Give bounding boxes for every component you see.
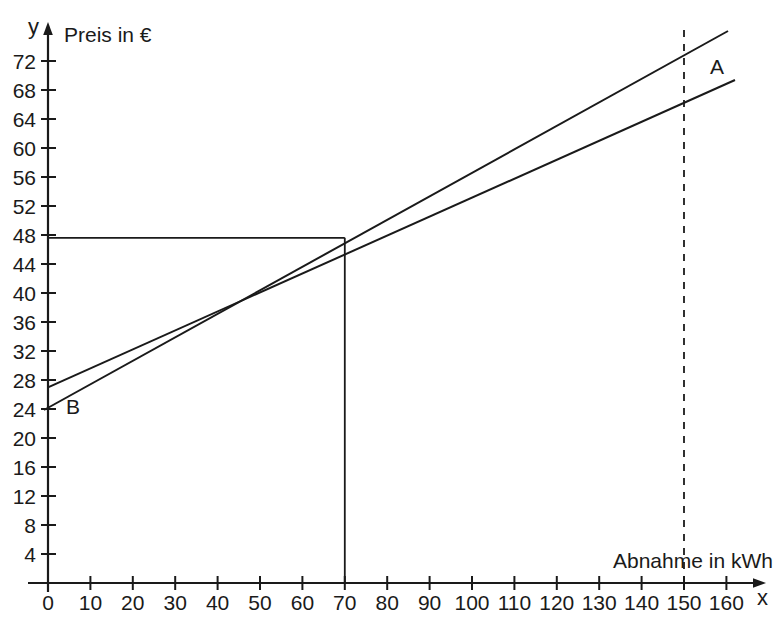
series-label-b: B [66,396,80,417]
y-axis-title: Preis in € [64,24,152,45]
y-tick-label: 32 [0,341,36,362]
y-tick-label: 44 [0,254,36,275]
y-tick-label: 28 [0,370,36,391]
x-tick-label: 0 [25,592,71,613]
y-axis-symbol: y [28,16,39,38]
series-label-a: A [710,56,724,77]
price-consumption-chart: y x Preis in € Abnahme in kWh 4 8 12 16 … [0,0,779,618]
series-line-b [44,31,728,410]
x-tick-label: 60 [279,592,325,613]
x-tick-label: 90 [407,592,453,613]
x-tick-label: 70 [322,592,368,613]
x-axis-title: Abnahme in kWh [613,550,773,571]
x-tick-label: 30 [152,592,198,613]
x-tick-label: 110 [491,592,537,613]
y-tick-label: 24 [0,399,36,420]
x-axis-symbol: x [757,587,768,609]
x-tick-label: 120 [534,592,580,613]
x-tick-label: 100 [449,592,495,613]
y-tick-label: 40 [0,283,36,304]
x-tick-label: 20 [110,592,156,613]
x-axis [28,578,766,588]
y-tick-label: 72 [0,51,36,72]
y-tick-label: 64 [0,109,36,130]
y-tick-label: 56 [0,167,36,188]
x-tick-label: 50 [237,592,283,613]
y-tick-label: 48 [0,225,36,246]
y-tick-label: 12 [0,486,36,507]
series-line-a [48,80,735,387]
x-tick-label: 150 [661,592,707,613]
x-tick-label: 80 [364,592,410,613]
intersection-guide-lines [48,238,345,583]
x-tick-label: 130 [576,592,622,613]
y-tick-label: 52 [0,196,36,217]
x-tick-label: 10 [67,592,113,613]
y-tick-label: 20 [0,428,36,449]
x-tick-label: 140 [619,592,665,613]
y-tick-label: 36 [0,312,36,333]
y-tick-label: 68 [0,80,36,101]
y-tick-label: 4 [0,544,36,565]
y-axis [43,22,53,592]
y-tick-label: 16 [0,457,36,478]
chart-plot-area [0,0,779,618]
x-tick-label: 40 [195,592,241,613]
y-tick-label: 60 [0,138,36,159]
x-tick-label: 160 [703,592,749,613]
y-tick-label: 8 [0,515,36,536]
